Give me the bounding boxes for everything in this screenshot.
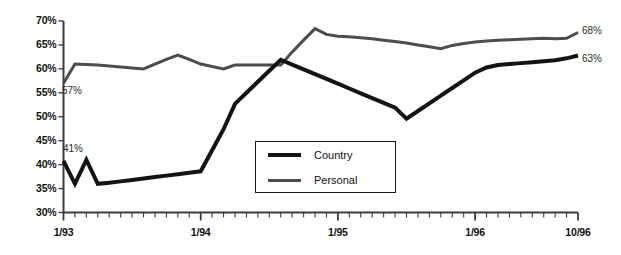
x-axis-tick-label: 1/96 — [445, 226, 505, 238]
y-axis-tick-label: 40% — [23, 158, 57, 170]
legend-label-personal: Personal — [314, 174, 357, 186]
legend-item-country[interactable]: Country — [256, 142, 395, 168]
legend-swatch-personal-icon — [268, 179, 301, 182]
legend-item-personal[interactable]: Personal — [256, 167, 395, 193]
y-axis-tick-label: 35% — [23, 182, 57, 194]
plot-area — [0, 0, 621, 255]
line-chart: 30%35%40%45%50%55%60%65%70% 1/931/941/95… — [0, 0, 621, 255]
x-axis-tick-label: 10/96 — [548, 226, 608, 238]
y-axis-tick-label: 30% — [23, 206, 57, 218]
legend-label-country: Country — [314, 149, 353, 161]
chart-legend: Country Personal — [255, 141, 396, 193]
y-axis-tick-label: 65% — [23, 38, 57, 50]
annotation-country-start: 41% — [63, 143, 83, 154]
x-axis-tick-label: 1/94 — [171, 226, 231, 238]
y-axis-tick-label: 60% — [23, 62, 57, 74]
x-axis-ticks — [64, 213, 579, 221]
x-axis-tick-label: 1/95 — [308, 226, 368, 238]
y-axis-tick-label: 50% — [23, 110, 57, 122]
legend-swatch-country-icon — [268, 153, 301, 157]
y-axis-tick-label: 70% — [23, 14, 57, 26]
y-axis-tick-label: 45% — [23, 134, 57, 146]
y-axis-tick-label: 55% — [23, 86, 57, 98]
x-axis-tick-label: 1/93 — [34, 226, 94, 238]
annotation-country-end: 63% — [582, 53, 602, 64]
annotation-personal-start: 57% — [62, 85, 82, 96]
annotation-personal-end: 68% — [582, 25, 602, 36]
